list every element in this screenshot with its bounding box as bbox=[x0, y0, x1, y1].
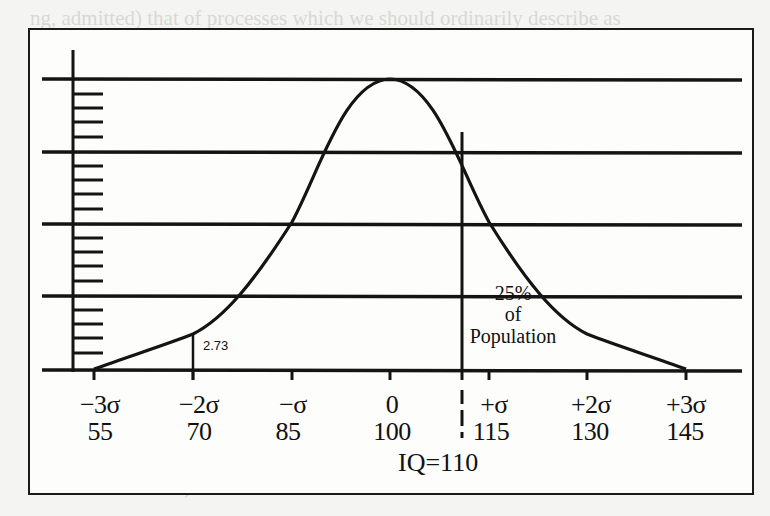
tick-label-sigma: −3σ bbox=[80, 392, 120, 418]
tick-label-iq: 70 bbox=[187, 419, 212, 445]
grid-line bbox=[42, 296, 742, 297]
tick-label-iq: 115 bbox=[473, 419, 510, 445]
grid-line bbox=[42, 152, 742, 153]
population-percent: 25% bbox=[495, 283, 532, 303]
tick-label-iq: 55 bbox=[88, 419, 113, 445]
tick-label-iq: 130 bbox=[571, 419, 609, 445]
tick-label-sigma: +3σ bbox=[666, 392, 706, 418]
tick-label-sigma: +2σ bbox=[571, 392, 611, 418]
iq-marker-label: IQ=110 bbox=[398, 450, 478, 476]
population-of: of bbox=[505, 304, 522, 324]
tick-label-sigma: +σ bbox=[480, 392, 508, 418]
tick-label-sigma: −2σ bbox=[179, 392, 219, 418]
left-tail-value: 2.73 bbox=[203, 338, 228, 353]
population-word: Population bbox=[470, 326, 557, 346]
tick-label-iq: 100 bbox=[373, 419, 411, 445]
tick-label-sigma: 0 bbox=[386, 392, 399, 418]
tick-label-iq: 145 bbox=[666, 419, 704, 445]
tick-label-iq: 85 bbox=[276, 419, 301, 445]
x-axis bbox=[42, 370, 742, 371]
grid-line bbox=[42, 224, 742, 225]
tick-label-sigma: −σ bbox=[279, 392, 307, 418]
